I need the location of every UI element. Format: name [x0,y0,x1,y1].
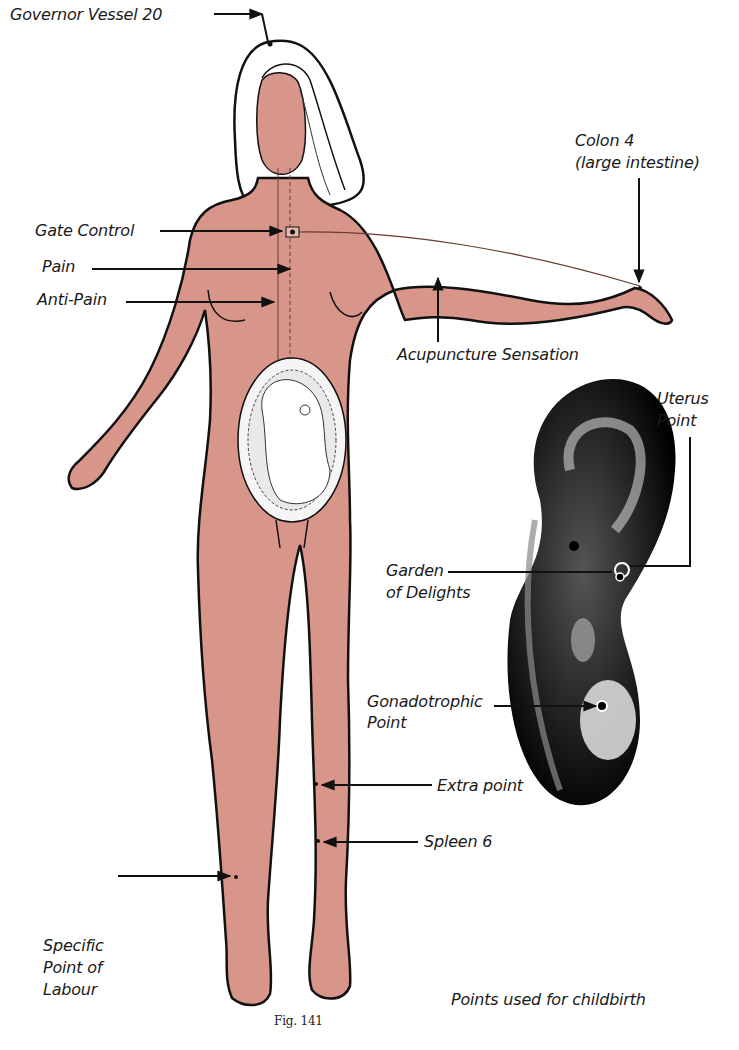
label-extra-point: Extra point [437,776,523,795]
label-pain: Pain [42,257,75,276]
label-uterus-point-line1: Uterus [657,389,709,408]
label-specific-point-line3: Labour [43,980,97,999]
figure-caption: Points used for childbirth [451,990,646,1009]
label-garden-of-delights-line1: Garden [386,561,444,580]
label-colon-4: Colon 4 [575,131,634,150]
label-anti-pain: Anti-Pain [37,290,107,309]
label-gonadotrophic-point-line2: Point [367,713,406,732]
ear-illustration [507,379,675,805]
label-specific-point-line2: Point of [43,958,102,977]
label-gate-control: Gate Control [35,221,134,240]
label-governor-vessel-20: Governor Vessel 20 [10,5,162,24]
label-spleen-6: Spleen 6 [424,832,492,851]
label-gonadotrophic-point-line1: Gonadotrophic [367,692,483,711]
label-acupuncture-sensation: Acupuncture Sensation [397,345,579,364]
label-specific-point-line1: Specific [43,936,104,955]
label-uterus-point-line2: Point [657,411,696,430]
acupuncture-childbirth-figure: Governor Vessel 20 Gate Control Pain Ant… [0,0,739,1050]
figure-number: Fig. 141 [274,1012,323,1031]
label-garden-of-delights-line2: of Delights [386,583,470,602]
label-colon-4-subtitle: (large intestine) [575,153,700,172]
